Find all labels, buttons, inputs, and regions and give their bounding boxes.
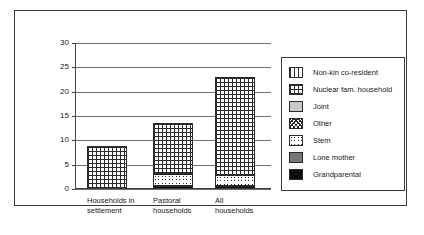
bar-segment (215, 77, 255, 175)
y-tick-label: 25 (60, 63, 69, 71)
y-tick-label: 30 (60, 39, 69, 47)
legend-swatch-icon (289, 135, 303, 146)
chart-outer-frame: 302520151050 Households insettlementPast… (14, 10, 407, 206)
x-tick-label-line: households (215, 206, 279, 216)
x-tick-label: Pastoralhouseholds (153, 196, 217, 215)
y-tickmark-0 (72, 189, 75, 190)
legend-item-label: Non-kin co-resident (313, 69, 378, 77)
bar-segment (153, 174, 193, 186)
y-tick-label: 10 (60, 136, 69, 144)
legend-item-label: Grandparental (313, 171, 361, 179)
bar-segment (87, 146, 127, 189)
legend-item-label: Lone mother (313, 154, 355, 162)
legend-item: Joint (282, 98, 404, 115)
bar-group: Allhouseholds (215, 43, 255, 189)
legend-swatch-icon (289, 101, 303, 112)
x-tick-label: Households insettlement (87, 196, 151, 215)
legend-swatch-icon (289, 118, 303, 129)
y-tick-label: 15 (60, 112, 69, 120)
bar-group: Pastoralhouseholds (153, 43, 193, 189)
bar-segment (153, 123, 193, 175)
gridline-0 (75, 189, 271, 190)
legend-item-label: Stem (313, 137, 331, 145)
legend-item: Non-kin co-resident (282, 64, 404, 81)
legend-item: Stem (282, 132, 404, 149)
legend-item: Grandparental (282, 166, 404, 183)
x-tick-label-line: All (215, 196, 279, 206)
bar-group: Households insettlement (87, 43, 127, 189)
legend-item-label: Nuclear fam. household (313, 86, 392, 94)
x-tick-label: Allhouseholds (215, 196, 279, 215)
bar-segment (215, 175, 255, 186)
legend-swatch-icon (289, 84, 303, 95)
legend-item-label: Joint (313, 103, 329, 111)
legend-swatch-icon (289, 152, 303, 163)
y-axis-line (75, 43, 76, 189)
y-tick-label: 5 (65, 161, 69, 169)
plot-area: 302520151050 Households insettlementPast… (75, 43, 271, 189)
y-tick-label: 0 (65, 185, 69, 193)
x-axis-line (75, 188, 271, 189)
legend-item: Lone mother (282, 149, 404, 166)
chart-figure: 302520151050 Households insettlementPast… (0, 0, 424, 235)
x-tick-label-line: households (153, 206, 217, 216)
chart-legend: Non-kin co-residentNuclear fam. househol… (281, 57, 405, 191)
legend-item: Other (282, 115, 404, 132)
legend-swatch-icon (289, 67, 303, 78)
x-tick-label-line: settlement (87, 206, 151, 216)
y-tick-label: 20 (60, 88, 69, 96)
legend-item: Nuclear fam. household (282, 81, 404, 98)
legend-swatch-icon (289, 169, 303, 180)
legend-item-label: Other (313, 120, 332, 128)
x-tick-label-line: Households in (87, 196, 151, 206)
x-tick-label-line: Pastoral (153, 196, 217, 206)
